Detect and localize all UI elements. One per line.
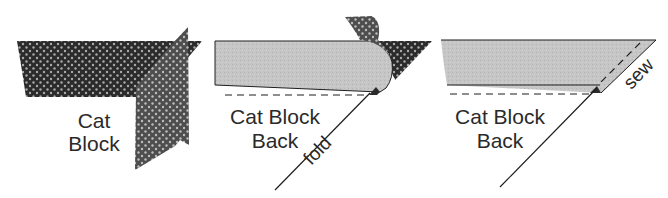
panel-2-label-line2: Back [252, 129, 299, 152]
panel-step-2: Cat Block Back fold [215, 16, 432, 190]
panel-step-1: Cat Block [17, 27, 202, 170]
panel-3-label-line2: Back [477, 129, 524, 152]
binding-diagram: Cat Block Cat Block Back [0, 0, 668, 198]
fabric-band-light [215, 41, 392, 92]
panel-3-label-line1: Cat Block [455, 105, 545, 128]
diagram-stage: Cat Block Cat Block Back [0, 0, 668, 198]
fold-label: fold [299, 132, 335, 169]
panel-step-3: Cat Block Back sew [441, 40, 658, 187]
panel-2-label-line1: Cat Block [230, 105, 320, 128]
panel-1-label-line2: Block [68, 132, 120, 155]
panel-1-label-line1: Cat [78, 109, 111, 132]
